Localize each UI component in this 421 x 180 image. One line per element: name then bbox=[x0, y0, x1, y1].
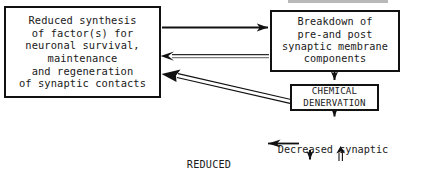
node-breakdown: Breakdown of pre-and post synaptic membr… bbox=[270, 10, 400, 72]
edge-breakdown-to-synthesis bbox=[161, 51, 270, 60]
node-line: neuronal survival, bbox=[25, 39, 139, 52]
node-line: synaptic membrane bbox=[282, 41, 388, 53]
node-line: Reduced synthesis bbox=[28, 14, 136, 27]
node-line: pre-and post bbox=[298, 29, 373, 41]
node-synaptic-reorganization: Synaptic reorganization bbox=[254, 163, 421, 180]
node-line: of factor(s) for bbox=[32, 27, 134, 40]
node-line: Breakdown of bbox=[298, 16, 373, 28]
node-line: REDUCED bbox=[165, 159, 253, 171]
node-line: DENERVATION bbox=[303, 98, 365, 109]
node-line: Decreased synaptic bbox=[263, 144, 403, 156]
edge-denervation-to-synthesis bbox=[162, 69, 292, 103]
node-line: maintenance bbox=[48, 52, 118, 65]
page-edge-artifact bbox=[288, 0, 388, 3]
node-reduced-synthesis: Reduced synthesis of factor(s) for neuro… bbox=[4, 6, 161, 98]
node-line: CHEMICAL bbox=[312, 86, 357, 97]
node-chemical-denervation: CHEMICAL DENERVATION bbox=[290, 84, 379, 111]
node-line: components bbox=[304, 53, 366, 65]
node-reduced-plasticity: REDUCED PLASTICITY bbox=[165, 134, 253, 180]
node-line: and regeneration bbox=[32, 65, 134, 78]
node-line: of synaptic contacts bbox=[19, 77, 146, 90]
flow-diagram: Reduced synthesis of factor(s) for neuro… bbox=[0, 0, 421, 180]
